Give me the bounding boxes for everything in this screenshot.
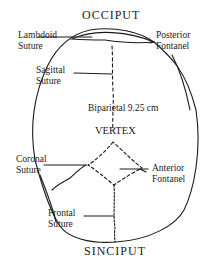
vertex-label: VERTEX bbox=[95, 125, 136, 136]
lambdoid-suture-label: Lambdoid Suture bbox=[18, 30, 57, 52]
biparietal-measurement: Biparietal 9.25 cm bbox=[88, 103, 158, 114]
sinciput-label: SINCIPUT bbox=[84, 246, 146, 257]
frontal-line1: Frontal bbox=[48, 208, 75, 219]
frontal-line2: Suture bbox=[48, 219, 75, 230]
sagittal-line1: Sagittal bbox=[36, 65, 65, 76]
sagittal-suture-label: Sagittal Suture bbox=[36, 65, 65, 87]
frontal-suture-label: Frontal Suture bbox=[48, 208, 75, 230]
posterior-fontanel bbox=[72, 32, 154, 42]
sagittal-line2: Suture bbox=[36, 76, 65, 87]
lambdoid-line1: Lambdoid bbox=[18, 30, 57, 41]
posterior-line1: Posterior bbox=[156, 30, 190, 41]
lambdoid-line2: Suture bbox=[18, 41, 57, 52]
occiput-label: OCCIPUT bbox=[82, 10, 140, 21]
fetal-skull-diagram: OCCIPUT Lambdoid Suture Posterior Fontan… bbox=[0, 0, 208, 271]
anterior-fontanel-label: Anterior Fontanel bbox=[152, 163, 185, 185]
coronal-line2: Suture bbox=[16, 165, 47, 176]
posterior-line2: Fontanel bbox=[156, 41, 190, 52]
coronal-suture-label: Coronal Suture bbox=[16, 154, 47, 176]
posterior-fontanel-label: Posterior Fontanel bbox=[156, 30, 190, 52]
anterior-line2: Fontanel bbox=[152, 174, 185, 185]
anterior-line1: Anterior bbox=[152, 163, 185, 174]
coronal-line1: Coronal bbox=[16, 154, 47, 165]
